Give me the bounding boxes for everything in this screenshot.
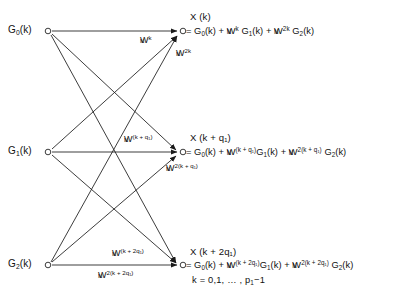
tw1l-sup: 2(k + q₁): [175, 162, 198, 169]
tw0l-sub: N: [176, 51, 180, 57]
tw2u-sup: (k + 2q₁): [121, 247, 144, 254]
x0-term2-w-sup: 2k: [283, 25, 290, 32]
x2-term2-w-sub: N: [292, 263, 297, 270]
x1-term2-w: WN2(k + q₁): [289, 147, 322, 158]
x1-term2-g-arg: (k): [335, 147, 346, 157]
x0-term1-w-sup: k: [236, 25, 239, 32]
x0-term2-w-sub: N: [274, 29, 279, 36]
output-equation-x1: = G0(k) + WN(k + q₁)G1(k) + WN2(k + q₁) …: [186, 147, 346, 158]
tw0u-sub: N: [140, 38, 144, 44]
twiddle-row1-upper-symbol: WN(k + q₁): [124, 134, 153, 144]
output-name-x2: X (k + 2q₁): [190, 247, 236, 257]
x1-term1-g-arg: (k) +: [267, 147, 286, 157]
tw2l-sub: N: [98, 273, 102, 279]
k-range-annotation: k = 0,1, … , p1−1: [192, 276, 265, 286]
x2-term2-g-arg: (k): [342, 260, 353, 270]
x2-term2-w: WN2(k + 2q₁): [292, 260, 329, 271]
x0-eq-lhs-arg: (k) +: [205, 26, 224, 36]
tw2u-sub: N: [112, 251, 116, 257]
twiddle-label-row2-lower: WN2(k + 2q₁): [98, 270, 133, 280]
output-name-x1: X (k + q₁): [190, 133, 231, 143]
output-equation-x2: = G0(k) + WN(k + 2q₁)G1(k) + WN2(k + 2q₁…: [186, 260, 353, 271]
x1-eq-lhs-arg: (k) +: [205, 147, 224, 157]
g2-symbol: G: [8, 258, 16, 269]
g1-arg: (k): [20, 145, 32, 156]
twiddle-label-row2-upper: WN(k + 2q₁): [112, 248, 144, 258]
x2-term1-g-arg: (k) +: [271, 260, 290, 270]
x0-term2-g-arg: (k): [303, 26, 314, 36]
x0-term2-g: G: [292, 26, 299, 36]
output-equation-x0: = G0(k) + WNk G1(k) + WN2k G2(k): [186, 26, 314, 37]
x1-term2-g: G: [324, 147, 331, 157]
g0-symbol: G: [8, 24, 16, 35]
x2-term2-w-sup: 2(k + 2q₁): [301, 259, 329, 266]
x1-term1-w-sub: N: [227, 150, 232, 157]
x0-term2-w: WN2k: [274, 26, 290, 37]
x1-term2-w-sup: 2(k + q₁): [298, 146, 322, 153]
x1-term2-w-sub: N: [289, 150, 294, 157]
x2-eq-lhs: = G: [186, 260, 201, 270]
g2-arg: (k): [20, 258, 32, 269]
twiddle-row1-lower-symbol: WN2(k + q₁): [166, 163, 198, 173]
tw2l-sup: 2(k + 2q₁): [107, 269, 134, 276]
x1-eq-lhs: = G: [186, 147, 201, 157]
input-label-g2: G2(k): [8, 259, 32, 270]
node-dot-g2: [45, 262, 51, 268]
x2-term1-g: G: [260, 260, 267, 270]
x0-term1-w: WNk: [227, 26, 239, 37]
node-dot-x1: [180, 149, 186, 155]
x0-eq-lhs: = G: [186, 26, 201, 36]
x1-term1-w-sup: (k + q₁): [236, 146, 257, 153]
k-range-prefix: k = 0,1, … , p: [192, 275, 250, 285]
x2-term2-g: G: [332, 260, 339, 270]
tw1u-sub: N: [124, 137, 128, 143]
tw1u-sup: (k + q₁): [133, 133, 153, 140]
tw0u-sup: k: [149, 34, 152, 41]
x0-term1-g: G: [241, 26, 248, 36]
tw0l-sup: 2k: [185, 47, 192, 54]
g0-arg: (k): [20, 24, 32, 35]
node-dot-g0: [45, 28, 51, 34]
g1-symbol: G: [8, 145, 16, 156]
x1-term1-w: WN(k + q₁): [227, 147, 256, 158]
twiddle-label-row1-upper: WN(k + q₁): [124, 134, 153, 144]
diagram-canvas: G0(k) G1(k) G2(k) X (k) = G0(k) + WNk G1…: [0, 0, 397, 303]
x2-term1-w-sup: (k + 2q₁): [236, 259, 260, 266]
output-name-x0: X (k): [190, 12, 211, 22]
twiddle-row2-upper-symbol: WN(k + 2q₁): [112, 248, 144, 258]
node-dot-g1: [45, 149, 51, 155]
input-label-g0: G0(k): [8, 25, 32, 36]
node-dot-x0: [180, 28, 186, 34]
x2-term1-w: WN(k + 2q₁): [227, 260, 260, 271]
twiddle-row2-lower-symbol: WN2(k + 2q₁): [98, 270, 133, 280]
node-dot-x2: [180, 262, 186, 268]
x2-term1-w-sub: N: [227, 263, 232, 270]
twiddle-label-row0-upper: WNk: [140, 35, 152, 45]
x2-eq-lhs-arg: (k) +: [205, 260, 224, 270]
twiddle-row0-lower-symbol: WN2k: [176, 48, 191, 58]
x0-term1-w-sub: N: [227, 29, 232, 36]
twiddle-label-row1-lower: WN2(k + q₁): [166, 163, 198, 173]
edge-g1-to-x0: [52, 36, 177, 149]
twiddle-label-row0-lower: WN2k: [176, 48, 191, 58]
input-label-g1: G1(k): [8, 146, 32, 157]
twiddle-row0-upper-symbol: WNk: [140, 35, 152, 45]
k-range-suffix: −1: [254, 275, 265, 285]
x0-term1-g-arg: (k) +: [252, 26, 271, 36]
edge-g2-to-x1: [52, 156, 176, 262]
tw1l-sub: N: [166, 166, 170, 172]
